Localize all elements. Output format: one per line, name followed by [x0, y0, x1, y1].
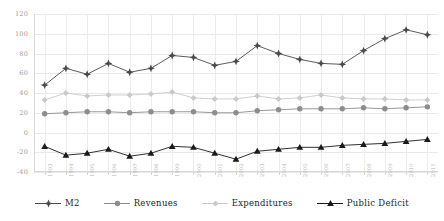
y-axis-tick-label: -20 — [2, 148, 28, 156]
data-point — [83, 70, 91, 78]
data-point — [212, 96, 218, 102]
data-point — [255, 108, 260, 113]
data-point — [233, 110, 238, 115]
data-point — [423, 31, 431, 39]
legend-item-revenues[interactable]: Revenues — [104, 198, 178, 209]
x-axis-tick-mark — [300, 172, 301, 175]
data-point — [191, 109, 196, 114]
legend-marker-icon — [104, 198, 130, 209]
y-axis-tick-label: 40 — [2, 89, 28, 97]
series-public-deficit — [41, 136, 431, 162]
data-point — [253, 42, 261, 50]
x-axis-tick-label: 2009 — [387, 163, 393, 177]
y-axis-tick-label: 60 — [2, 69, 28, 77]
x-axis-tick-mark — [406, 172, 407, 175]
data-point — [382, 96, 388, 102]
data-point — [232, 58, 240, 66]
data-point — [381, 35, 389, 43]
series-revenues — [42, 104, 430, 116]
data-point — [403, 97, 409, 103]
data-point — [126, 68, 134, 76]
x-axis-tick-label: 2001 — [217, 163, 223, 177]
x-axis-tick-label: 1994 — [68, 163, 74, 177]
x-axis-tick-label: 1998 — [153, 163, 159, 177]
x-axis-tick-mark — [151, 172, 152, 175]
data-point — [276, 107, 281, 112]
x-axis-tick-label: 2005 — [302, 163, 308, 177]
data-point — [297, 106, 302, 111]
x-axis-tick-label: 1996 — [111, 163, 117, 177]
data-point — [212, 110, 217, 115]
y-axis-tick-label: 100 — [2, 30, 28, 38]
data-point — [297, 95, 303, 101]
x-axis-tick-label: 2010 — [408, 163, 414, 177]
data-point — [338, 60, 346, 68]
data-point — [318, 92, 324, 98]
series-expenditures — [42, 89, 431, 103]
legend-item-label: Public Deficit — [347, 198, 409, 208]
data-point — [147, 64, 155, 72]
data-point — [340, 106, 345, 111]
x-axis-tick-mark — [66, 172, 67, 175]
x-axis-tick-label: 2004 — [281, 163, 287, 177]
data-point — [212, 200, 218, 206]
y-axis-tick-label: 80 — [2, 50, 28, 58]
data-point — [169, 89, 175, 95]
data-point — [106, 109, 111, 114]
data-point — [127, 92, 133, 98]
x-axis-tick-label: 2003 — [259, 163, 265, 177]
data-point — [296, 56, 304, 64]
data-point — [424, 97, 430, 103]
data-point — [63, 110, 68, 115]
legend-item-public-deficit[interactable]: Public Deficit — [317, 198, 409, 209]
x-axis-tick-mark — [108, 172, 109, 175]
legend-item-m2[interactable]: M2 — [35, 198, 80, 209]
data-point — [339, 95, 345, 101]
x-axis-tick-mark — [364, 172, 365, 175]
x-axis-tick-mark — [321, 172, 322, 175]
data-point — [105, 146, 112, 152]
x-axis-tick-mark — [236, 172, 237, 175]
data-point — [276, 96, 282, 102]
legend-marker-icon — [317, 198, 343, 209]
data-point — [327, 200, 334, 206]
x-axis-tick-label: 2006 — [323, 163, 329, 177]
data-point — [62, 64, 70, 72]
x-axis-tick-mark — [279, 172, 280, 175]
data-point — [41, 81, 49, 89]
x-axis-tick-label: 2002 — [238, 163, 244, 177]
x-axis-tick-mark — [215, 172, 216, 175]
data-point — [41, 143, 48, 149]
x-axis-tick-label: 1993 — [47, 163, 53, 177]
y-axis-tick-label: 120 — [2, 10, 28, 18]
data-point — [361, 105, 366, 110]
data-point — [42, 97, 48, 103]
data-point — [148, 91, 154, 97]
data-point — [127, 110, 132, 115]
line-chart: -40-20020406080100120 199319941995199619… — [0, 0, 444, 221]
data-point — [318, 106, 323, 111]
data-point — [42, 111, 47, 116]
data-point — [425, 104, 430, 109]
x-axis-tick-label: 2000 — [196, 163, 202, 177]
data-point — [317, 59, 325, 67]
data-point — [382, 106, 387, 111]
data-point — [361, 96, 367, 102]
x-axis-tick-label: 1995 — [89, 163, 95, 177]
data-point — [360, 47, 368, 55]
series-m2 — [41, 26, 432, 89]
x-axis-tick-label: 2008 — [366, 163, 372, 177]
data-point — [114, 200, 119, 205]
legend-marker-icon — [35, 198, 61, 209]
data-point — [402, 26, 410, 34]
x-axis-tick-mark — [385, 172, 386, 175]
legend-item-expenditures[interactable]: Expenditures — [202, 198, 293, 209]
data-point — [105, 59, 113, 67]
plot-area — [34, 14, 438, 172]
data-point — [190, 95, 196, 101]
data-point — [148, 109, 153, 114]
data-point — [169, 143, 176, 149]
data-point — [211, 61, 219, 69]
legend-item-label: M2 — [65, 198, 80, 208]
x-axis-tick-mark — [427, 172, 428, 175]
